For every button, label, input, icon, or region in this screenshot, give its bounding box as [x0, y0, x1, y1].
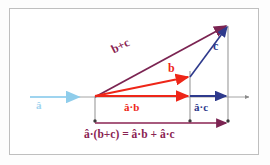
vector-b-plus-c — [95, 26, 226, 97]
label-a-dot-b: â·b — [124, 102, 139, 113]
vector-dot-product-figure: â b+c b c â·b â·c â·(b+c) = â·b + â·c — [0, 0, 270, 165]
guide-dot-apex — [226, 119, 229, 122]
label-c: c — [213, 40, 218, 52]
label-distributive-equation: â·(b+c) = â·b + â·c — [84, 129, 175, 141]
label-a-dot-c: â·c — [194, 102, 208, 113]
label-a-hat: â — [36, 100, 42, 111]
vector-b — [95, 77, 188, 96]
guide-dot-origin — [93, 119, 96, 122]
label-b: b — [168, 62, 175, 74]
guide-dot-b-tip — [188, 119, 191, 122]
